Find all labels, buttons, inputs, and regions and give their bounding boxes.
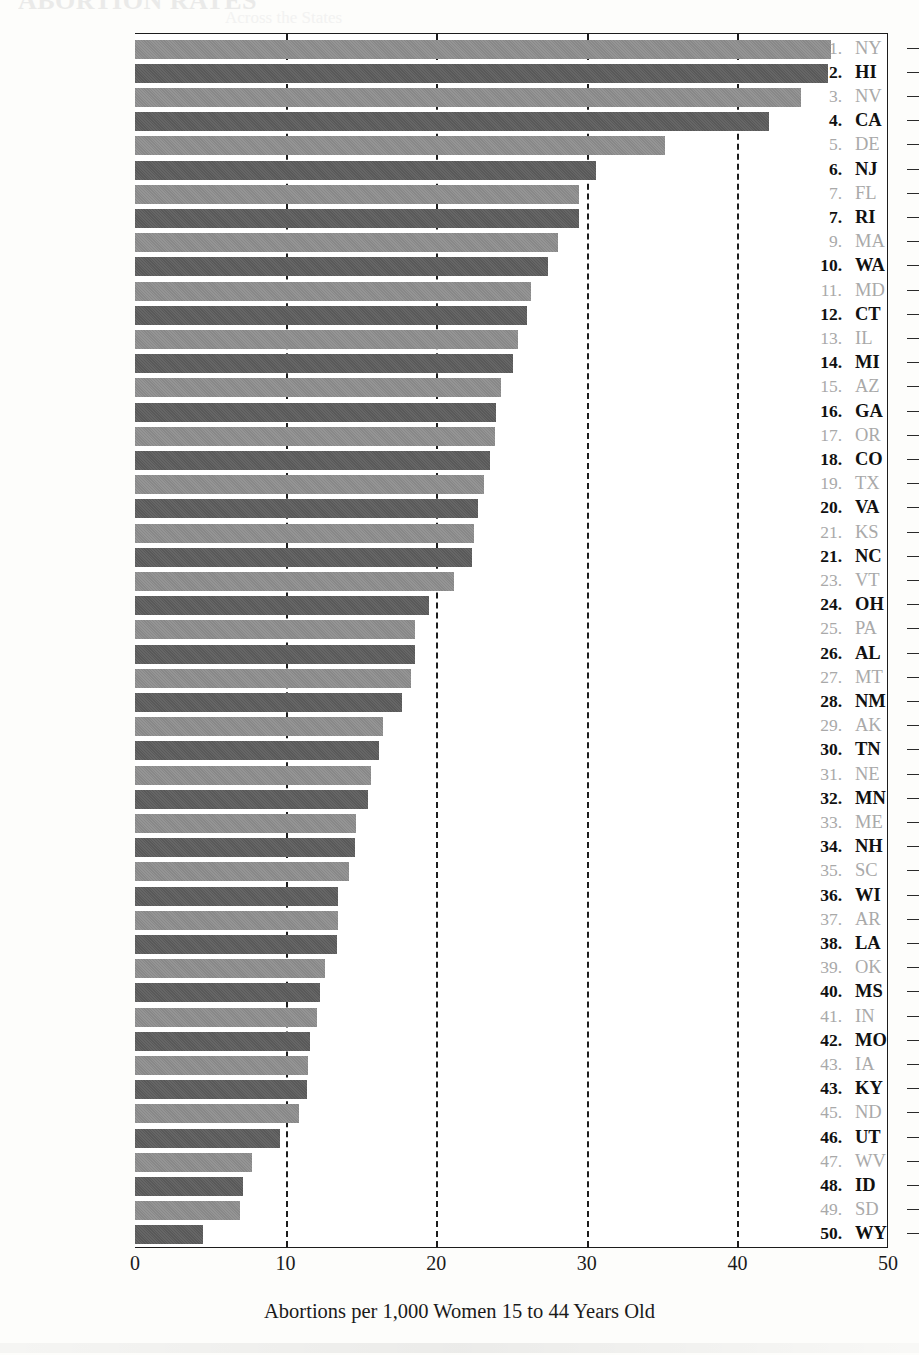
y-label-fl: 7.FL <box>784 181 919 205</box>
state-abbreviation: CT <box>842 304 904 325</box>
y-label-md: 11.MD <box>784 278 919 302</box>
bar-ct <box>135 306 527 325</box>
y-label-wa: 10.WA <box>784 254 919 278</box>
rank-number: 7. <box>798 207 842 228</box>
y-label-ar: 37.AR <box>784 907 919 931</box>
bar-id <box>135 1177 243 1196</box>
bar-wv <box>135 1153 252 1172</box>
bar-row <box>135 400 887 424</box>
y-label-va: 20.VA <box>784 496 919 520</box>
state-abbreviation: HI <box>842 62 904 83</box>
rank-number: 11. <box>798 280 842 301</box>
y-tick-mark <box>907 459 919 460</box>
bar-row <box>135 666 887 690</box>
x-tick-30: 30 <box>577 1252 597 1275</box>
y-tick-mark <box>907 749 919 750</box>
bar-de <box>135 136 665 155</box>
bar-row <box>135 811 887 835</box>
bar-row <box>135 473 887 497</box>
bar-row <box>135 352 887 376</box>
rank-number: 33. <box>798 812 842 833</box>
state-abbreviation: NH <box>842 836 904 857</box>
y-tick-mark <box>907 725 919 726</box>
bar-row <box>135 521 887 545</box>
state-abbreviation: IL <box>842 328 904 349</box>
y-tick-mark <box>907 846 919 847</box>
bar-ks <box>135 524 474 543</box>
bar-row <box>135 884 887 908</box>
state-abbreviation: MD <box>842 280 904 301</box>
bar-row <box>135 1174 887 1198</box>
bar-me <box>135 814 356 833</box>
y-tick-mark <box>907 991 919 992</box>
bar-row <box>135 763 887 787</box>
bar-row <box>135 497 887 521</box>
bar-row <box>135 715 887 739</box>
y-tick-mark <box>907 72 919 73</box>
y-label-ia: 43.IA <box>784 1052 919 1076</box>
y-tick-mark <box>907 701 919 702</box>
state-abbreviation: MA <box>842 231 904 252</box>
state-abbreviation: CA <box>842 110 904 131</box>
y-tick-mark <box>907 1161 919 1162</box>
state-abbreviation: AK <box>842 715 904 736</box>
rank-number: 18. <box>798 449 842 470</box>
state-abbreviation: GA <box>842 401 904 422</box>
state-abbreviation: NE <box>842 764 904 785</box>
rank-number: 43. <box>798 1054 842 1075</box>
rank-number: 13. <box>798 328 842 349</box>
bar-in <box>135 1008 317 1027</box>
bar-mn <box>135 790 368 809</box>
state-abbreviation: AL <box>842 643 904 664</box>
state-abbreviation: FL <box>842 183 904 204</box>
y-label-wi: 36.WI <box>784 883 919 907</box>
bar-row <box>135 642 887 666</box>
state-abbreviation: AZ <box>842 376 904 397</box>
state-abbreviation: MS <box>842 981 904 1002</box>
bar-row <box>135 206 887 230</box>
y-label-ak: 29.AK <box>784 714 919 738</box>
y-tick-mark <box>907 967 919 968</box>
y-label-nh: 34.NH <box>784 835 919 859</box>
rank-number: 39. <box>798 957 842 978</box>
y-label-ne: 31.NE <box>784 762 919 786</box>
bar-ok <box>135 959 325 978</box>
bar-row <box>135 1199 887 1223</box>
y-tick-mark <box>907 314 919 315</box>
bar-hi <box>135 64 828 83</box>
rank-number: 43. <box>798 1078 842 1099</box>
bar-nh <box>135 838 355 857</box>
state-abbreviation: UT <box>842 1127 904 1148</box>
bar-row <box>135 85 887 109</box>
rank-number: 29. <box>798 715 842 736</box>
y-label-mi: 14.MI <box>784 351 919 375</box>
state-abbreviation: VT <box>842 570 904 591</box>
bar-row <box>135 279 887 303</box>
bar-row <box>135 1053 887 1077</box>
y-tick-mark <box>907 435 919 436</box>
bar-pa <box>135 620 415 639</box>
y-label-or: 17.OR <box>784 423 919 447</box>
rank-number: 32. <box>798 788 842 809</box>
y-tick-mark <box>907 532 919 533</box>
state-abbreviation: NJ <box>842 159 904 180</box>
bar-row <box>135 1005 887 1029</box>
y-tick-mark <box>907 507 919 508</box>
state-abbreviation: WA <box>842 255 904 276</box>
y-tick-mark <box>907 556 919 557</box>
y-tick-mark <box>907 144 919 145</box>
y-tick-mark <box>907 1233 919 1234</box>
y-tick-mark <box>907 870 919 871</box>
state-abbreviation: TX <box>842 473 904 494</box>
y-tick-mark <box>907 169 919 170</box>
y-tick-mark <box>907 774 919 775</box>
y-label-in: 41.IN <box>784 1004 919 1028</box>
y-label-mt: 27.MT <box>784 665 919 689</box>
bar-ma <box>135 233 558 252</box>
bar-row <box>135 908 887 932</box>
bar-ga <box>135 403 496 422</box>
rank-number: 21. <box>798 546 842 567</box>
bar-md <box>135 282 531 301</box>
bar-row <box>135 690 887 714</box>
rank-number: 49. <box>798 1199 842 1220</box>
